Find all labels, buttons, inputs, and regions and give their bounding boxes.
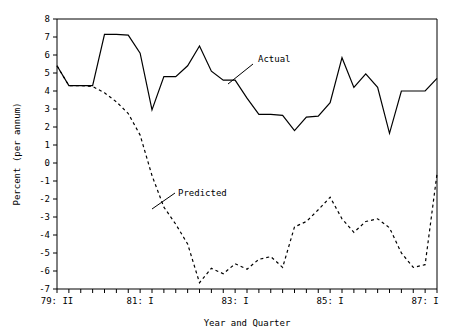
y-tick-label: 3 <box>45 104 50 114</box>
y-tick-label: -5 <box>39 248 50 258</box>
y-tick-label: -7 <box>39 284 50 294</box>
x-tick-label: 83: I <box>222 296 249 306</box>
y-tick-label: 6 <box>45 50 50 60</box>
series-line-actual <box>57 34 437 133</box>
y-axis-title: Percent (per annum) <box>12 103 22 206</box>
x-axis-title: Year and Quarter <box>204 318 291 328</box>
y-tick-label: 1 <box>45 140 50 150</box>
series-group <box>57 34 437 282</box>
y-tick-label: 0 <box>45 158 50 168</box>
x-axis: 79: II81: I83: I85: I87: I <box>41 289 439 306</box>
annotation-label-actual: Actual <box>258 54 291 64</box>
y-tick-label: 4 <box>45 86 50 96</box>
annotation-leader-line <box>228 64 253 84</box>
y-tick-label: -2 <box>39 194 50 204</box>
y-tick-label: -1 <box>39 176 50 186</box>
y-tick-label: 8 <box>45 14 50 24</box>
x-tick-label: 79: II <box>41 296 74 306</box>
annotations: ActualPredicted <box>152 54 291 209</box>
y-tick-label: 2 <box>45 122 50 132</box>
plot-frame <box>57 19 437 289</box>
annotation-label-predicted: Predicted <box>178 188 227 198</box>
line-chart-svg: 876543210-1-2-3-4-5-6-7 79: II81: I83: I… <box>0 0 455 336</box>
y-tick-label: -3 <box>39 212 50 222</box>
y-tick-label: 5 <box>45 68 50 78</box>
y-tick-label: -4 <box>39 230 50 240</box>
y-axis: 876543210-1-2-3-4-5-6-7 <box>39 14 57 294</box>
x-tick-label: 87: I <box>412 296 439 306</box>
y-tick-label: 7 <box>45 32 50 42</box>
y-tick-label: -6 <box>39 266 50 276</box>
x-tick-label: 85: I <box>317 296 344 306</box>
annotation-leader-line <box>152 193 175 209</box>
chart-figure: 876543210-1-2-3-4-5-6-7 79: II81: I83: I… <box>0 0 455 336</box>
x-tick-label: 81: I <box>127 296 154 306</box>
